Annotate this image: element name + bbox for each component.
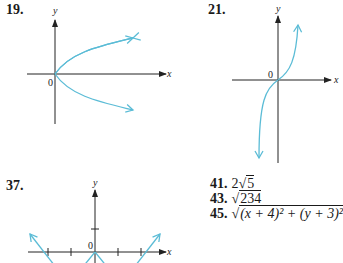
graph-21-y-label: y (275, 3, 281, 14)
graph-37-y-label: y (92, 177, 98, 188)
answer-43: 43.√234 (210, 192, 261, 206)
problem-19-number: 19. (6, 2, 24, 18)
graph-19 (27, 20, 166, 124)
graph-19-x-label: x (166, 68, 172, 79)
graph-37-origin: 0 (88, 240, 93, 251)
graph-21-origin: 0 (268, 69, 273, 80)
graph-21 (232, 16, 331, 163)
answer-41: 41.2√5 (210, 177, 254, 191)
answer-45: 45.√(x + 4)² + (y + 3)² (210, 207, 343, 221)
problem-37-number: 37. (6, 178, 24, 194)
graph-37-x-label: x (166, 246, 172, 257)
graph-21-x-label: x (333, 74, 339, 85)
problem-21-number: 21. (208, 2, 226, 18)
graph-19-origin: 0 (48, 77, 53, 88)
graph-19-y-label: y (52, 5, 58, 16)
graph-37 (28, 190, 166, 263)
